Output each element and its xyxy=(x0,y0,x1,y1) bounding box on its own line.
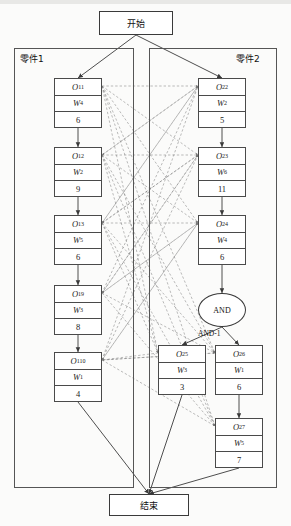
operation-id-cell: O26 xyxy=(216,346,262,363)
duration-cell: 6 xyxy=(55,249,101,266)
machine-subscript: 2 xyxy=(224,100,227,106)
machine-symbol: W xyxy=(217,236,224,245)
machine-subscript: 4 xyxy=(224,237,227,243)
operation-node-O19[interactable]: O19W38 xyxy=(54,285,102,335)
operation-subscript: 11 xyxy=(78,84,84,90)
machine-subscript: 3 xyxy=(184,367,187,373)
operation-node-O25[interactable]: O25W33 xyxy=(158,345,206,395)
machine-subscript: 4 xyxy=(80,100,83,106)
operation-id-cell: O27 xyxy=(216,419,262,436)
machine-symbol: W xyxy=(73,306,80,315)
duration-cell: 3 xyxy=(159,379,205,396)
operation-node-O22[interactable]: O22W25 xyxy=(198,78,246,128)
diagram-canvas: 零件1零件2开始结束O11W46O12W29O13W56O19W38O110W1… xyxy=(0,0,291,526)
operation-id-cell: O11 xyxy=(55,79,101,96)
operation-subscript: 24 xyxy=(222,221,228,227)
operation-node-O13[interactable]: O13W56 xyxy=(54,215,102,265)
operation-subscript: 25 xyxy=(182,351,188,357)
operation-id-cell: O23 xyxy=(199,148,245,165)
duration-cell: 11 xyxy=(199,181,245,198)
part-label-part1: 零件1 xyxy=(20,52,44,65)
machine-symbol: W xyxy=(217,99,224,108)
operation-subscript: 26 xyxy=(239,351,245,357)
machine-cell: W4 xyxy=(199,233,245,250)
operation-subscript: 23 xyxy=(222,153,228,159)
operation-id-cell: O22 xyxy=(199,79,245,96)
machine-subscript: 1 xyxy=(241,367,244,373)
machine-symbol: W xyxy=(234,439,241,448)
operation-id-cell: O24 xyxy=(199,216,245,233)
machine-subscript: 3 xyxy=(80,307,83,313)
machine-cell: W4 xyxy=(55,96,101,113)
duration-cell: 5 xyxy=(199,112,245,129)
machine-symbol: W xyxy=(73,99,80,108)
and-gate-node[interactable]: AND xyxy=(198,293,246,327)
operation-node-O26[interactable]: O26W16 xyxy=(215,345,263,395)
terminal-start[interactable]: 开始 xyxy=(99,11,173,35)
machine-symbol: W xyxy=(73,236,80,245)
machine-cell: W3 xyxy=(159,363,205,380)
machine-cell: W2 xyxy=(55,165,101,182)
operation-subscript: 27 xyxy=(239,424,245,430)
operation-subscript: 110 xyxy=(77,358,86,364)
operation-node-O110[interactable]: O110W14 xyxy=(54,352,102,402)
machine-cell: W6 xyxy=(199,165,245,182)
duration-cell: 4 xyxy=(55,386,101,403)
operation-id-cell: O13 xyxy=(55,216,101,233)
machine-cell: W1 xyxy=(216,363,262,380)
and-gate-label: AND-1 xyxy=(198,329,221,338)
operation-node-O24[interactable]: O24W46 xyxy=(198,215,246,265)
operation-id-cell: O19 xyxy=(55,286,101,303)
duration-cell: 9 xyxy=(55,181,101,198)
operation-subscript: 12 xyxy=(78,153,84,159)
machine-subscript: 5 xyxy=(80,237,83,243)
operation-subscript: 22 xyxy=(222,84,228,90)
machine-symbol: W xyxy=(217,168,224,177)
operation-node-O12[interactable]: O12W29 xyxy=(54,147,102,197)
operation-subscript: 19 xyxy=(78,291,84,297)
machine-subscript: 2 xyxy=(80,169,83,175)
operation-id-cell: O110 xyxy=(55,353,101,370)
machine-cell: W1 xyxy=(55,370,101,387)
duration-cell: 7 xyxy=(216,452,262,469)
machine-cell: W5 xyxy=(216,436,262,453)
operation-id-cell: O12 xyxy=(55,148,101,165)
operation-subscript: 13 xyxy=(78,221,84,227)
operation-node-O27[interactable]: O27W57 xyxy=(215,418,263,468)
operation-id-cell: O25 xyxy=(159,346,205,363)
part-label-part2: 零件2 xyxy=(236,52,260,65)
duration-cell: 6 xyxy=(199,249,245,266)
machine-symbol: W xyxy=(73,168,80,177)
machine-subscript: 5 xyxy=(241,440,244,446)
machine-subscript: 1 xyxy=(80,374,83,380)
duration-cell: 8 xyxy=(55,319,101,336)
machine-symbol: W xyxy=(234,366,241,375)
machine-symbol: W xyxy=(73,373,80,382)
machine-symbol: W xyxy=(177,366,184,375)
operation-node-O11[interactable]: O11W46 xyxy=(54,78,102,128)
machine-cell: W2 xyxy=(199,96,245,113)
machine-cell: W5 xyxy=(55,233,101,250)
duration-cell: 6 xyxy=(55,112,101,129)
machine-cell: W3 xyxy=(55,303,101,320)
operation-node-O23[interactable]: O23W611 xyxy=(198,147,246,197)
duration-cell: 6 xyxy=(216,379,262,396)
machine-subscript: 6 xyxy=(224,169,227,175)
terminal-end[interactable]: 结束 xyxy=(109,494,189,516)
